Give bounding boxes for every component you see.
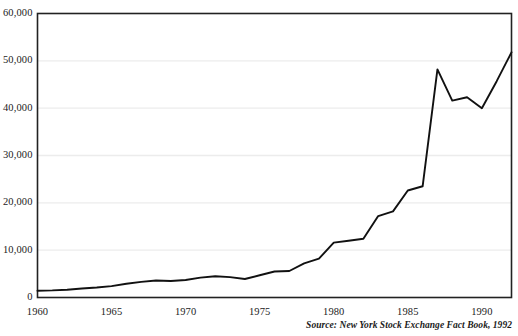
y-tick-label: 50,000 [3,55,32,66]
x-tick-label: 1965 [90,307,134,318]
y-tick-label: 10,000 [3,245,32,256]
data-series-line [38,52,512,290]
chart-plot-area [0,0,518,336]
x-tick-label: 1970 [164,307,208,318]
gridlines-group [38,61,512,250]
y-tick-label: 20,000 [3,197,32,208]
y-tick-label: 40,000 [3,103,32,114]
y-tick-label: 30,000 [3,150,32,161]
x-tick-label: 1960 [16,307,60,318]
source-note: Source: New York Stock Exchange Fact Boo… [306,320,512,330]
x-tick-label: 1975 [238,307,282,318]
x-tick-label: 1990 [460,307,504,318]
series-polyline [38,52,512,290]
chart-figure: 010,00020,00030,00040,00050,00060,000 19… [0,0,518,336]
y-tick-label: 0 [27,292,32,303]
x-tick-label: 1985 [386,307,430,318]
y-tick-label: 60,000 [3,8,32,19]
x-tick-label: 1980 [312,307,356,318]
